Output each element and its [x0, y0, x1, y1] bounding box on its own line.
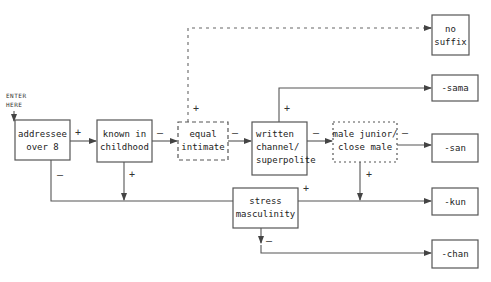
node-addressee-over-8: addressee over 8 [15, 120, 70, 160]
sign-equal-up: + [193, 103, 199, 114]
node-written-line3: superpolite [256, 155, 316, 165]
sign-addressee-known: + [75, 127, 81, 138]
outcome-san: -san [432, 134, 478, 162]
node-addressee-line1: addressee [18, 129, 67, 139]
edge-addressee-stress [51, 160, 233, 201]
entry-label-line2: HERE [6, 101, 22, 108]
sign-male-down: + [366, 169, 372, 180]
edge-written-sama [279, 88, 431, 122]
sign-known-equal: – [157, 127, 164, 138]
node-equal-line2: intimate [181, 142, 224, 152]
sign-stress-chan: – [266, 235, 273, 246]
sign-addressee-down: – [57, 169, 64, 180]
node-addressee-line2: over 8 [26, 142, 59, 152]
node-equal-intimate: equal intimate [178, 122, 228, 160]
node-male-junior: male junior/ close male [332, 122, 397, 162]
outcome-nosuffix-line2: suffix [434, 37, 467, 47]
outcome-sama: -sama [432, 75, 478, 101]
node-stress-line2: masculinity [236, 209, 296, 219]
node-stress-masculinity: stress masculinity [233, 188, 298, 228]
node-stress-line1: stress [249, 196, 282, 206]
outcome-kun-label: -kun [444, 197, 466, 207]
outcome-chan-label: -chan [441, 249, 468, 259]
node-written-channel: written channel/ superpolite [252, 122, 316, 175]
sign-male-san: – [402, 127, 409, 138]
node-written-line1: written [256, 129, 294, 139]
node-written-line2: channel/ [256, 142, 299, 152]
sign-written-male: – [313, 127, 320, 138]
sign-stress-kun: + [303, 183, 309, 194]
outcome-chan: -chan [432, 240, 478, 268]
outcome-sama-label: -sama [441, 83, 468, 93]
node-known-line1: known in [103, 129, 146, 139]
node-male-line1: male junior/ [332, 129, 397, 139]
node-male-line2: close male [338, 142, 392, 152]
node-equal-line1: equal [189, 129, 216, 139]
sign-known-down: + [129, 169, 135, 180]
node-known-in-childhood: known in childhood [97, 120, 152, 162]
sign-written-up: + [284, 103, 290, 114]
edge-equal-nosuffix [188, 28, 431, 122]
outcome-nosuffix-line1: no [445, 24, 456, 34]
entry-point: ENTER HERE [6, 92, 27, 121]
sign-equal-written: – [232, 127, 239, 138]
outcome-no-suffix: no suffix [432, 15, 469, 55]
outcome-kun: -kun [432, 188, 478, 215]
decision-flowchart: ENTER HERE + – – + [0, 0, 491, 282]
outcome-san-label: -san [444, 143, 466, 153]
edge-stress-chan [261, 245, 431, 253]
entry-label-line1: ENTER [6, 92, 27, 99]
node-known-line2: childhood [100, 142, 149, 152]
